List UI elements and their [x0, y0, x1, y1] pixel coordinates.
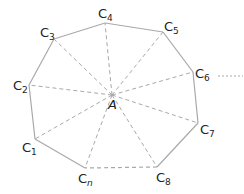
spoke-A-C6 [112, 72, 193, 95]
edge-C3-C4 [54, 23, 105, 39]
label-center-A: A [107, 97, 117, 112]
label-C6: C6 [195, 66, 210, 83]
spoke-A-C4 [105, 23, 112, 95]
spoke-A-C7 [112, 95, 198, 123]
edge-C7-C8 [157, 123, 198, 167]
spoke-A-C1 [35, 95, 112, 139]
edge-C4-C5 [105, 23, 163, 32]
edge-Cn-C1 [35, 139, 85, 168]
label-C4: C4 [98, 6, 113, 23]
edge-C2-C3 [29, 39, 54, 85]
spoke-A-C2 [29, 85, 112, 95]
label-C7: C7 [200, 122, 215, 139]
edge-C1-C2 [29, 85, 35, 139]
edge-C5-C6 [163, 32, 193, 72]
spoke-A-C3 [54, 39, 112, 95]
polygon-diagram: C1C2C3C4C5C6C7C8CnA [0, 0, 244, 194]
label-C3: C3 [40, 25, 55, 42]
spoke-A-C8 [112, 95, 157, 167]
spoke-A-C5 [112, 32, 163, 95]
label-Cn: Cn [78, 171, 93, 188]
label-C5: C5 [164, 19, 179, 36]
dashed-edge-C8-Cn [85, 167, 157, 168]
vertex-labels: C1C2C3C4C5C6C7C8CnA [13, 6, 215, 188]
label-C2: C2 [13, 78, 28, 95]
label-C8: C8 [156, 170, 171, 187]
label-C1: C1 [22, 140, 37, 157]
